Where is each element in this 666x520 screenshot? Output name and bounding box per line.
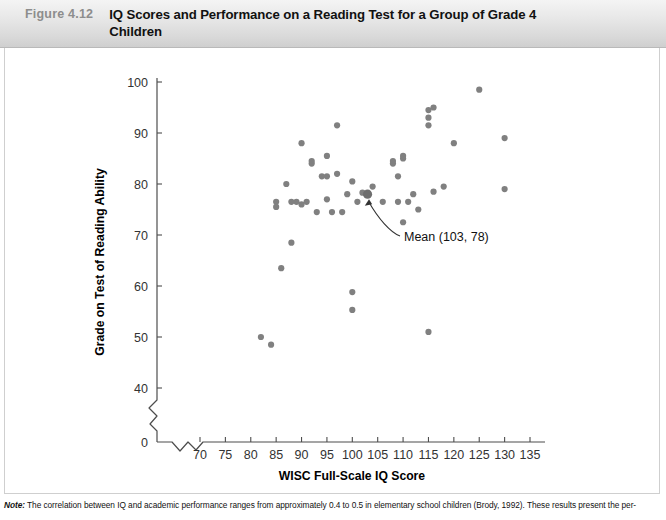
y-tick-label-60: 60	[134, 280, 148, 294]
data-point	[451, 140, 457, 146]
scatter-chart: 4050607080901000707580859095100105110115…	[0, 0, 666, 500]
x-axis-title: WISC Full-Scale IQ Score	[279, 469, 426, 483]
mean-annotation-label: Mean (103, 78)	[404, 230, 489, 244]
figure-container: Figure 4.12 IQ Scores and Performance on…	[0, 0, 666, 520]
x-tick-label-100: 100	[342, 448, 363, 462]
data-point	[298, 140, 304, 146]
x-tick-label-80: 80	[244, 448, 258, 462]
data-point	[324, 196, 330, 202]
data-point	[339, 209, 345, 215]
data-point	[349, 307, 355, 313]
data-point	[425, 122, 431, 128]
data-point	[390, 161, 396, 167]
x-tick-label-75: 75	[218, 448, 232, 462]
x-tick-label-110: 110	[393, 448, 413, 462]
data-point	[400, 219, 406, 225]
y-tick-label-90: 90	[134, 127, 148, 141]
data-point	[314, 209, 320, 215]
y-origin-label: 0	[141, 436, 148, 450]
data-point	[324, 173, 330, 179]
data-point	[283, 181, 289, 187]
annotation-group: Mean (103, 78)	[365, 199, 489, 244]
x-tick-label-90: 90	[295, 448, 309, 462]
data-point	[502, 135, 508, 141]
data-point	[400, 155, 406, 161]
chart-svg: 4050607080901000707580859095100105110115…	[0, 0, 666, 500]
data-point	[441, 183, 447, 189]
data-point	[476, 87, 482, 93]
data-points-group	[258, 87, 508, 348]
data-point	[304, 199, 310, 205]
x-tick-label-105: 105	[367, 448, 388, 462]
data-point	[349, 178, 355, 184]
data-point	[354, 199, 360, 205]
x-tick-label-130: 130	[494, 448, 515, 462]
data-point	[370, 183, 376, 189]
data-point	[395, 199, 401, 205]
data-point	[344, 191, 350, 197]
annotation-leader-line	[369, 202, 400, 236]
x-tick-label-95: 95	[320, 448, 334, 462]
x-tick-label-120: 120	[443, 448, 464, 462]
data-point	[309, 158, 315, 164]
data-point	[425, 329, 431, 335]
x-tick-label-70: 70	[193, 448, 207, 462]
x-tick-label-125: 125	[469, 448, 490, 462]
note-label: Note:	[4, 500, 25, 510]
data-point	[349, 289, 355, 295]
data-point	[278, 265, 284, 271]
y-tick-label-80: 80	[134, 178, 148, 192]
data-point	[329, 209, 335, 215]
data-point	[380, 199, 386, 205]
data-point	[430, 104, 436, 110]
note-text: The correlation between IQ and academic …	[25, 500, 636, 510]
y-axis-break	[149, 396, 157, 442]
data-point	[415, 206, 421, 212]
data-point	[288, 240, 294, 246]
figure-note: Note: The correlation between IQ and aca…	[4, 500, 662, 510]
data-point	[334, 122, 340, 128]
data-point	[405, 199, 411, 205]
y-tick-label-70: 70	[134, 229, 148, 243]
data-point	[324, 153, 330, 159]
data-point	[258, 334, 264, 340]
axes-group: 4050607080901000707580859095100105110115…	[93, 76, 545, 484]
mean-data-point	[363, 190, 372, 199]
data-point	[425, 115, 431, 121]
data-point	[410, 191, 416, 197]
data-point	[334, 171, 340, 177]
y-tick-label-100: 100	[127, 76, 148, 90]
data-point	[273, 204, 279, 210]
x-tick-label-135: 135	[520, 448, 541, 462]
y-tick-label-50: 50	[134, 331, 148, 345]
y-axis-title: Grade on Test of Reading Ability	[93, 168, 107, 356]
x-tick-label-115: 115	[418, 448, 438, 462]
data-point	[502, 186, 508, 192]
data-point	[395, 173, 401, 179]
data-point	[268, 342, 274, 348]
data-point	[430, 189, 436, 195]
y-tick-label-40: 40	[134, 382, 148, 396]
x-tick-label-85: 85	[269, 448, 283, 462]
